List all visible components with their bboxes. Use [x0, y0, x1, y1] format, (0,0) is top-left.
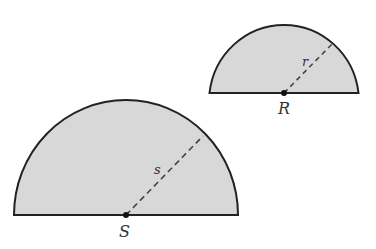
center-label-r: R — [277, 99, 290, 118]
radius-label-r: r — [302, 54, 309, 69]
small-semicircle: r R — [210, 25, 359, 118]
center-label-s: S — [119, 222, 130, 241]
semicircles-diagram: r R s S — [0, 0, 376, 249]
center-point-r — [281, 90, 287, 96]
radius-label-s: s — [154, 162, 161, 177]
large-semicircle: s S — [14, 100, 238, 241]
center-point-s — [123, 212, 129, 218]
